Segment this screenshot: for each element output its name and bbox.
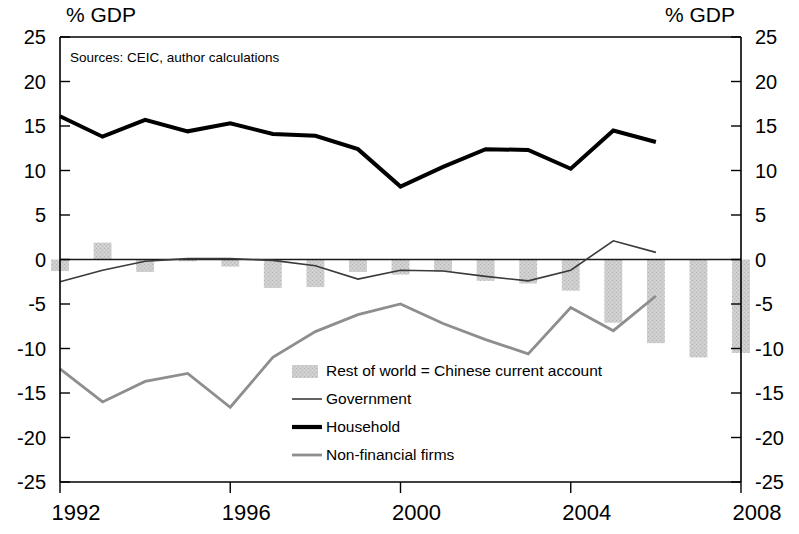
legend-label-non-financial-firms: Non-financial firms	[326, 446, 455, 463]
legend-label-household: Household	[326, 418, 400, 435]
y-tick-label-left-15: 15	[24, 115, 46, 137]
bar-1998	[306, 260, 324, 288]
bar-2004	[562, 260, 580, 291]
y-tick-label-right-25: 25	[755, 26, 777, 48]
x-tick-label-2000: 2000	[392, 500, 441, 525]
source-note: Sources: CEIC, author calculations	[70, 50, 280, 65]
legend-swatch-rest-of-world	[292, 365, 318, 378]
bar-1993	[94, 243, 112, 260]
y-tick-label-left-neg25: -25	[17, 471, 46, 493]
bar-1996	[221, 260, 239, 267]
y-tick-label-right-5: 5	[755, 204, 766, 226]
y-tick-label-right-neg5: -5	[755, 293, 773, 315]
x-axis-ticks: 19921996200020042008	[52, 482, 782, 525]
y-tick-label-right-15: 15	[755, 115, 777, 137]
y-tick-label-left-neg20: -20	[17, 427, 46, 449]
y-tick-label-right-neg20: -20	[755, 427, 784, 449]
bar-1999	[349, 260, 367, 272]
y-tick-label-left-neg5: -5	[28, 293, 46, 315]
y-tick-label-right-20: 20	[755, 71, 777, 93]
legend-label-rest-of-world-chinese-current-account: Rest of world = Chinese current account	[326, 362, 603, 379]
y-tick-label-right-0: 0	[755, 249, 766, 271]
right-axis-unit-label: % GDP	[665, 3, 735, 26]
bar-2001	[434, 260, 452, 272]
y-tick-label-left-0: 0	[35, 249, 46, 271]
x-tick-label-2008: 2008	[733, 500, 782, 525]
x-tick-label-1992: 1992	[52, 500, 101, 525]
y-tick-label-left-neg10: -10	[17, 338, 46, 360]
x-tick-label-2004: 2004	[562, 500, 611, 525]
y-tick-label-left-10: 10	[24, 160, 46, 182]
bar-2005	[604, 260, 622, 323]
y-tick-label-left-5: 5	[35, 204, 46, 226]
legend-label-government: Government	[326, 390, 412, 407]
bar-2007	[690, 260, 708, 358]
chart-container: 25252020151510105500-5-5-10-10-15-15-20-…	[0, 0, 799, 534]
bar-1997	[264, 260, 282, 288]
y-tick-label-right-neg15: -15	[755, 382, 784, 404]
y-tick-label-left-20: 20	[24, 71, 46, 93]
bar-2000	[392, 260, 410, 275]
y-tick-label-left-neg15: -15	[17, 382, 46, 404]
y-tick-label-left-25: 25	[24, 26, 46, 48]
y-tick-label-right-neg25: -25	[755, 471, 784, 493]
y-tick-label-right-10: 10	[755, 160, 777, 182]
y-tick-label-right-neg10: -10	[755, 338, 784, 360]
left-axis-unit-label: % GDP	[66, 3, 136, 26]
savings-investment-balances-chart: 25252020151510105500-5-5-10-10-15-15-20-…	[0, 0, 799, 534]
x-tick-label-1996: 1996	[222, 500, 271, 525]
